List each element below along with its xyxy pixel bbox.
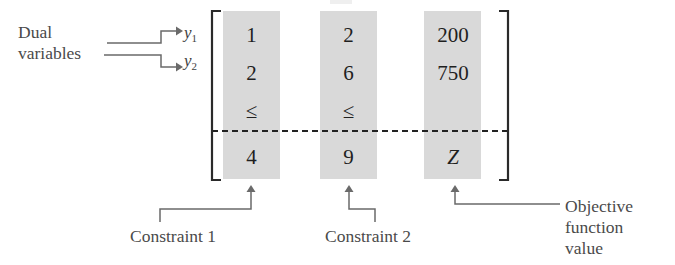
constraint-2-arrowhead (345, 185, 354, 192)
dual-variable-y2-connector (104, 55, 176, 67)
left-bracket (212, 11, 221, 180)
constraint-2-label: Constraint 2 (325, 226, 411, 247)
objective-value-arrowhead (451, 185, 460, 192)
constraint-2-connector (349, 192, 375, 222)
constraint-1-arrowhead (247, 185, 256, 192)
dual-variable-y2-arrowhead (176, 63, 183, 72)
constraint-1-connector (160, 192, 251, 222)
figure-canvas: Dual variables y1 y2 1 2 ≤ 4 2 6 ≤ 9 200… (0, 0, 675, 265)
dual-variable-y1-connector (107, 31, 176, 43)
objective-value-connector (455, 192, 560, 204)
constraint-1-label: Constraint 1 (130, 226, 216, 247)
right-bracket (499, 11, 508, 180)
dual-variable-y1-arrowhead (176, 27, 183, 36)
objective-function-value-label: Objective function value (565, 196, 633, 259)
